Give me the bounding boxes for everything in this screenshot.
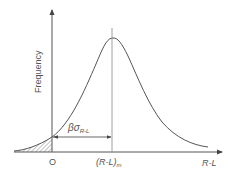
y-axis-label: Frequency	[33, 50, 43, 93]
mean-label: (R-L)m	[96, 157, 122, 168]
origin-label: O	[49, 157, 56, 167]
frequency-diagram: Frequency O (R-L)m R-L βσR-L	[0, 0, 234, 173]
distribution-curve	[14, 38, 208, 151]
x-axis-label: R-L	[202, 158, 217, 168]
beta-sigma-label: βσR-L	[67, 122, 89, 134]
